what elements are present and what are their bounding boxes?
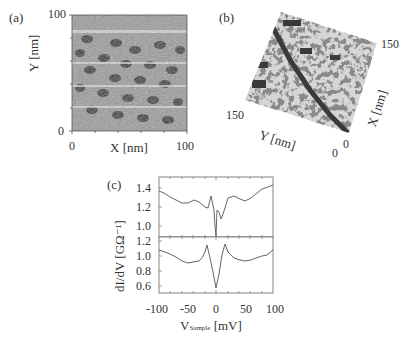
panel-b-y-tick-150: 150 xyxy=(226,108,244,123)
x-tick-minus-100: -100 xyxy=(146,302,168,317)
bottom-y-tick-0.8: 0.8 xyxy=(136,264,151,279)
top-y-tick-1.0: 1.0 xyxy=(136,219,151,234)
panel-c-bottom-plot xyxy=(159,237,273,293)
panel-b-x-tick-0: 0 xyxy=(343,137,349,152)
x-axis-label-main: V xyxy=(180,318,189,333)
x-axis-label-sub: Sample xyxy=(189,324,210,332)
bottom-y-tick-1.2: 1.2 xyxy=(136,234,151,249)
top-y-tick-1.2: 1.2 xyxy=(136,200,151,215)
panel-c-y-axis-label: dI/dV [GΩ⁻¹] xyxy=(112,220,128,292)
figure-graphics xyxy=(0,0,409,343)
panel-b-x-tick-150: 150 xyxy=(381,37,399,52)
x-tick-100: 100 xyxy=(266,302,284,317)
x-tick-minus-50: -50 xyxy=(180,302,196,317)
bottom-y-tick-0.6: 0.6 xyxy=(136,279,151,294)
panel-b-map-image xyxy=(240,10,380,135)
panel-c-x-axis-label: VSample [mV] xyxy=(180,318,242,334)
x-tick-50: 50 xyxy=(240,302,252,317)
x-tick-0: 0 xyxy=(213,302,219,317)
panel-c-label: (c) xyxy=(107,177,121,193)
panel-c-top-plot xyxy=(159,177,273,237)
top-y-tick-1.4: 1.4 xyxy=(136,181,151,196)
x-axis-label-unit: [mV] xyxy=(214,318,242,333)
panel-b-label: (b) xyxy=(219,10,234,26)
panel-b-y-tick-0: 0 xyxy=(332,146,338,161)
panel-a-stm-image xyxy=(72,15,187,131)
bottom-y-tick-1.0: 1.0 xyxy=(136,249,151,264)
